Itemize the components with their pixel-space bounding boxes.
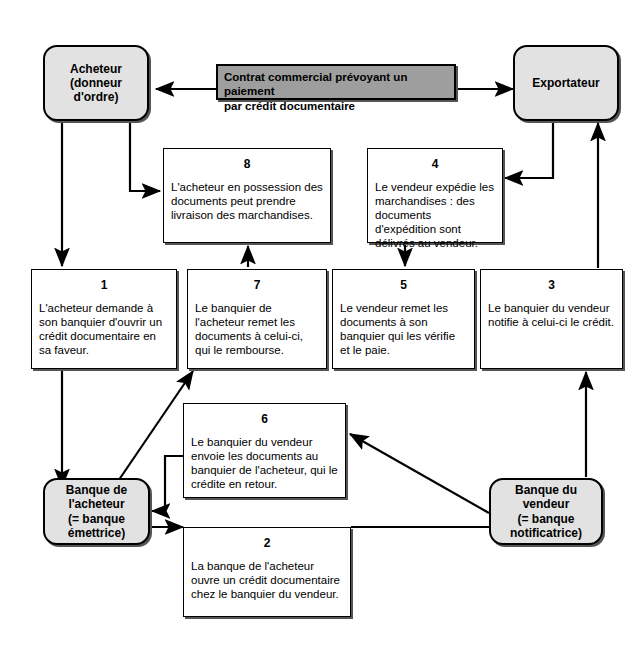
actor-banque-vendeur-label: Banque duvendeur(= banquenotificatrice) — [506, 483, 586, 540]
step-6-number: 6 — [191, 412, 338, 426]
step-2-text: La banque de l'acheteur ouvre un crédit … — [191, 559, 343, 601]
actor-acheteur-label: Acheteur(donneurd'ordre) — [66, 62, 126, 104]
actor-exportateur[interactable]: Exportateur — [513, 45, 619, 121]
step-1-number: 1 — [39, 278, 169, 292]
arrow-buyerbank-to-step7 — [110, 371, 193, 493]
step-3-text: Le banquier du vendeur notifie à celui-c… — [488, 301, 615, 329]
step-3-number: 3 — [488, 278, 615, 292]
actor-acheteur[interactable]: Acheteur(donneurd'ordre) — [43, 45, 149, 121]
step-box-3[interactable]: 3 Le banquier du vendeur notifie à celui… — [480, 269, 623, 369]
step-7-number: 7 — [195, 278, 319, 292]
credit-documentaire-diagram: Acheteur(donneurd'ordre) Contrat commerc… — [0, 0, 643, 666]
step-7-text: Le banquier de l'acheteur remet les docu… — [195, 301, 319, 357]
step-box-5[interactable]: 5 Le vendeur remet les documents à son b… — [332, 269, 475, 369]
step-4-text: Le vendeur expédie les marchandises : de… — [375, 180, 495, 250]
arrow-exporter-to-step4 — [505, 121, 553, 178]
step-2-number: 2 — [191, 536, 343, 550]
contract-line-2: par crédit documentaire — [224, 100, 355, 112]
actor-banque-acheteur[interactable]: Banque del'acheteur(= banqueémettrice) — [43, 478, 150, 545]
arrow-sellerbank-to-step6 — [350, 434, 489, 513]
step-8-number: 8 — [171, 157, 323, 171]
step-box-8[interactable]: 8 L'acheteur en possession des documents… — [163, 148, 331, 243]
step-1-text: L'acheteur demande à son banquier d'ouvr… — [39, 301, 169, 357]
actor-banque-acheteur-label: Banque del'acheteur(= banqueémettrice) — [62, 483, 131, 540]
actor-exportateur-label: Exportateur — [528, 76, 603, 90]
step-box-7[interactable]: 7 Le banquier de l'acheteur remet les do… — [187, 269, 327, 369]
arrow-step6-to-buyerbank — [152, 456, 183, 511]
step-box-1[interactable]: 1 L'acheteur demande à son banquier d'ou… — [31, 269, 177, 369]
step-5-text: Le vendeur remet les documents à son ban… — [340, 301, 467, 357]
contract-line-1: Contrat commercial prévoyant un paiement — [224, 71, 407, 97]
step-5-number: 5 — [340, 278, 467, 292]
actor-banque-vendeur[interactable]: Banque duvendeur(= banquenotificatrice) — [489, 478, 603, 545]
step-box-4[interactable]: 4 Le vendeur expédie les marchandises : … — [367, 148, 503, 243]
step-4-number: 4 — [375, 157, 495, 171]
step-8-text: L'acheteur en possession des documents p… — [171, 180, 323, 222]
contract-banner: Contrat commercial prévoyant un paiement… — [216, 64, 456, 100]
step-box-6[interactable]: 6 Le banquier du vendeur envoie les docu… — [183, 403, 346, 498]
step-6-text: Le banquier du vendeur envoie les docume… — [191, 435, 338, 491]
arrow-buyer-to-step8 — [130, 121, 160, 191]
step-box-2[interactable]: 2 La banque de l'acheteur ouvre un crédi… — [183, 527, 351, 617]
